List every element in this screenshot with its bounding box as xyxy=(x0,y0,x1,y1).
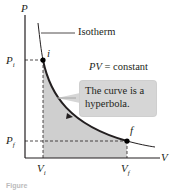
p-final-label: Pf xyxy=(6,134,15,149)
v-initial-label: Vi xyxy=(37,162,46,177)
hyperbola-callout: The curve is a hyperbola. xyxy=(80,81,156,116)
isotherm-curve xyxy=(38,23,43,60)
point-i-label: i xyxy=(47,47,50,59)
v-axis-label: V xyxy=(161,151,168,163)
point-f-label: f xyxy=(130,124,133,136)
callout-line-1: The curve is a xyxy=(85,84,144,97)
point-f xyxy=(124,138,129,143)
point-i xyxy=(40,57,45,62)
v-final-label: Vf xyxy=(121,162,130,177)
callout-line-2: hyperbola. xyxy=(85,97,144,110)
isotherm-curve-tail xyxy=(127,141,155,147)
figure-caption: Figure xyxy=(6,182,27,189)
p-axis-label: P xyxy=(21,2,28,14)
callout-text: The curve is a hyperbola. xyxy=(85,84,144,110)
p-initial-label: Pi xyxy=(6,54,15,69)
isotherm-label: Isotherm xyxy=(78,26,115,37)
equation-label: PV = constant xyxy=(89,61,148,72)
